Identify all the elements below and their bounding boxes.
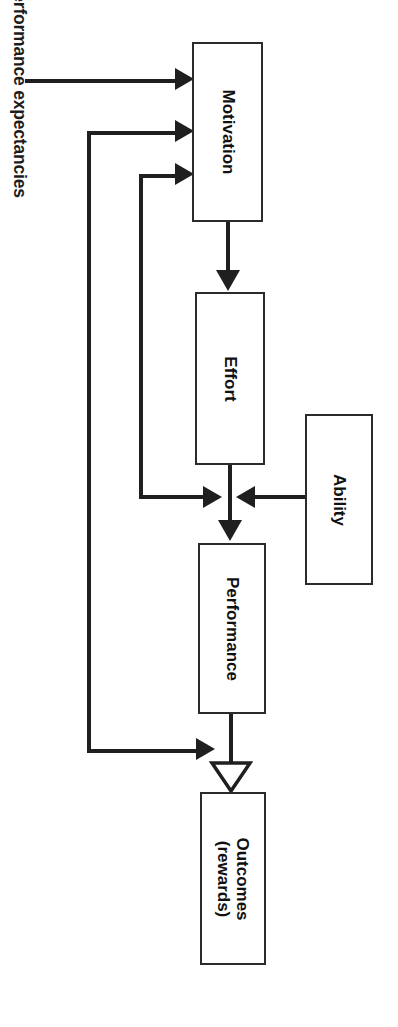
node-effort-label: Effort xyxy=(220,356,239,401)
effort-to-performance-arrow-head-icon xyxy=(218,520,242,541)
node-motivation-label: Motivation xyxy=(218,90,237,175)
feedback-outer-arrow-line xyxy=(87,131,180,135)
ability-to-junction-line xyxy=(252,495,307,499)
performance-to-outcomes-line xyxy=(229,712,233,766)
figure-canvas: A person's motivation is a function of: … xyxy=(0,0,398,1027)
effort-to-performance-line xyxy=(228,463,232,526)
node-outcomes[interactable]: Outcomes (rewards) xyxy=(200,792,266,965)
feedback-outer-vertical-line xyxy=(87,131,91,753)
input-arrow-line xyxy=(25,79,180,83)
node-performance[interactable]: Performance xyxy=(198,543,266,714)
feedback-inner-arrow-line xyxy=(139,174,180,178)
node-outcomes-label-line1: Outcomes xyxy=(233,837,252,920)
ability-arrow-head-icon xyxy=(236,486,255,508)
node-outcomes-label: Outcomes (rewards) xyxy=(214,837,252,920)
node-ability-label: Ability xyxy=(329,474,348,526)
feedback-outer-bottom-line xyxy=(87,749,200,753)
node-performance-label: Performance xyxy=(222,577,241,681)
node-effort[interactable]: Effort xyxy=(195,292,265,465)
feedback-outer-tap-arrow-head-icon xyxy=(196,738,215,760)
feedback-inner-tap-arrow-head-icon xyxy=(203,486,222,508)
motivation-to-effort-line xyxy=(226,220,230,274)
node-outcomes-label-line2: (rewards) xyxy=(214,840,233,917)
motivation-to-effort-arrow-head-icon xyxy=(216,270,240,291)
performance-to-outcomes-arrow-head-icon xyxy=(209,760,253,794)
node-motivation[interactable]: Motivation xyxy=(192,42,263,222)
feedback-inner-bottom-line xyxy=(139,495,207,499)
node-ability[interactable]: Ability xyxy=(305,414,373,585)
feedback-inner-vertical-line xyxy=(139,174,143,499)
